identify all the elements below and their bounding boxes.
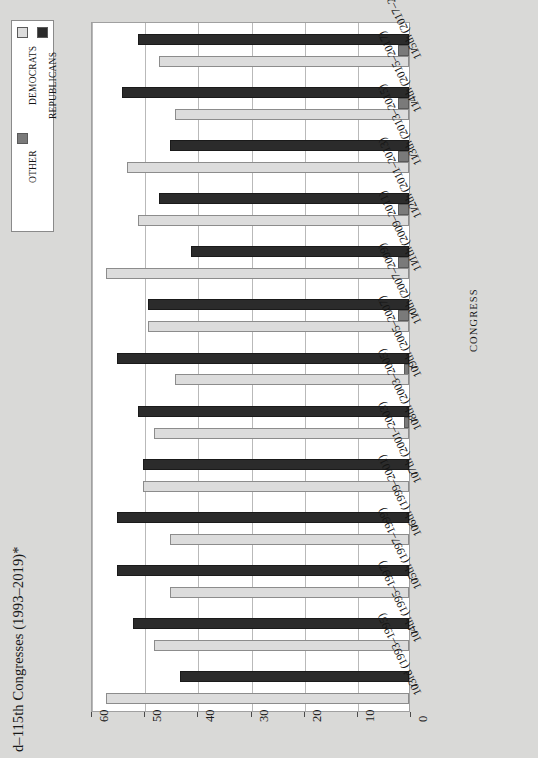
x-axis-tick	[91, 712, 92, 717]
x-axis-label: 10	[363, 710, 378, 723]
gridline	[198, 23, 199, 711]
plot-area	[91, 22, 410, 712]
legend-swatch-republicans	[37, 27, 48, 38]
bar-republicans-10	[170, 140, 409, 151]
bar-republicans-6	[117, 353, 409, 364]
legend-swatch-other	[17, 133, 28, 144]
legend-item-other: OTHER	[12, 127, 32, 237]
bar-republicans-4	[143, 459, 409, 470]
bar-democrats-7	[148, 321, 409, 332]
legend-item-democrats: DEMOCRATS	[12, 21, 32, 131]
bar-democrats-2	[170, 587, 409, 598]
bar-democrats-1	[154, 640, 409, 651]
bar-democrats-8	[106, 268, 409, 279]
legend-column-1: DEMOCRATS OTHER	[12, 21, 32, 231]
legend-label-republicans: REPUBLICANS	[48, 52, 58, 119]
bar-democrats-3	[170, 534, 409, 545]
bar-republicans-12	[138, 34, 409, 45]
x-axis-tick	[144, 712, 145, 717]
gridline	[92, 23, 93, 711]
x-axis-tick	[251, 712, 252, 717]
x-axis-tick	[197, 712, 198, 717]
legend-swatch-democrats	[17, 27, 28, 38]
bar-republicans-3	[117, 512, 409, 523]
gridline	[358, 23, 359, 711]
bar-republicans-11	[122, 87, 409, 98]
bar-democrats-12	[159, 56, 409, 67]
bar-democrats-0	[106, 693, 409, 704]
x-axis-label: 60	[97, 710, 112, 723]
page-title: d–115th Congresses (1993–2019)*	[10, 546, 27, 752]
gridline	[305, 23, 306, 711]
bar-democrats-10	[127, 162, 409, 173]
bar-democrats-9	[138, 215, 409, 226]
bar-republicans-7	[148, 299, 409, 310]
x-axis-tick	[304, 712, 305, 717]
x-axis-tick	[357, 712, 358, 717]
x-axis-label: 40	[203, 710, 218, 723]
bar-republicans-1	[133, 618, 409, 629]
bar-republicans-2	[117, 565, 409, 576]
bar-democrats-6	[175, 374, 409, 385]
x-axis-label: 30	[257, 710, 272, 723]
x-axis-label: 20	[310, 710, 325, 723]
bar-democrats-11	[175, 109, 409, 120]
legend-item-republicans: REPUBLICANS	[32, 21, 52, 131]
gridline	[252, 23, 253, 711]
bar-republicans-5	[138, 406, 409, 417]
x-axis-label: 0	[416, 716, 431, 722]
x-axis-label: 50	[150, 710, 165, 723]
gridline	[145, 23, 146, 711]
bar-republicans-0	[180, 671, 409, 682]
axis-title-congress: CONGRESS	[468, 288, 479, 352]
chart-page: d–115th Congresses (1993–2019)* DEMOCRAT…	[0, 0, 538, 758]
legend-column-2: REPUBLICANS	[32, 21, 52, 231]
chart-legend: DEMOCRATS OTHER REPUBLICANS	[11, 20, 54, 232]
bar-republicans-9	[159, 193, 409, 204]
bar-democrats-4	[143, 481, 409, 492]
x-axis-tick	[410, 712, 411, 717]
bar-democrats-5	[154, 428, 409, 439]
